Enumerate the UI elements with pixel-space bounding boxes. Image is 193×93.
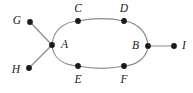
label-layer: ABCDEFGHI: [11, 2, 187, 85]
vertex-label-e: E: [73, 73, 81, 85]
vertex-e[interactable]: [75, 63, 81, 69]
vertex-f[interactable]: [121, 63, 127, 69]
graph-canvas: ABCDEFGHI: [0, 0, 193, 93]
vertex-layer: [26, 18, 177, 71]
edge-h-a: [29, 45, 52, 68]
edge-c-d: [78, 19, 124, 21]
edge-g-a: [30, 22, 52, 45]
vertex-i[interactable]: [171, 43, 177, 49]
vertex-label-a: A: [60, 38, 69, 50]
edge-f-e: [78, 66, 124, 68]
vertex-c[interactable]: [75, 18, 81, 24]
vertex-label-c: C: [74, 2, 82, 14]
vertex-label-d: D: [119, 2, 129, 14]
vertex-label-f: F: [119, 73, 128, 85]
vertex-h[interactable]: [26, 65, 32, 71]
vertex-label-i: I: [181, 39, 187, 51]
vertex-g[interactable]: [27, 19, 33, 25]
vertex-b[interactable]: [145, 43, 151, 49]
vertex-label-b: B: [132, 39, 139, 51]
vertex-d[interactable]: [121, 18, 127, 24]
vertex-a[interactable]: [49, 42, 55, 48]
vertex-label-h: H: [11, 63, 21, 75]
graph-diagram: ABCDEFGHI: [0, 0, 193, 93]
vertex-label-g: G: [13, 14, 22, 26]
